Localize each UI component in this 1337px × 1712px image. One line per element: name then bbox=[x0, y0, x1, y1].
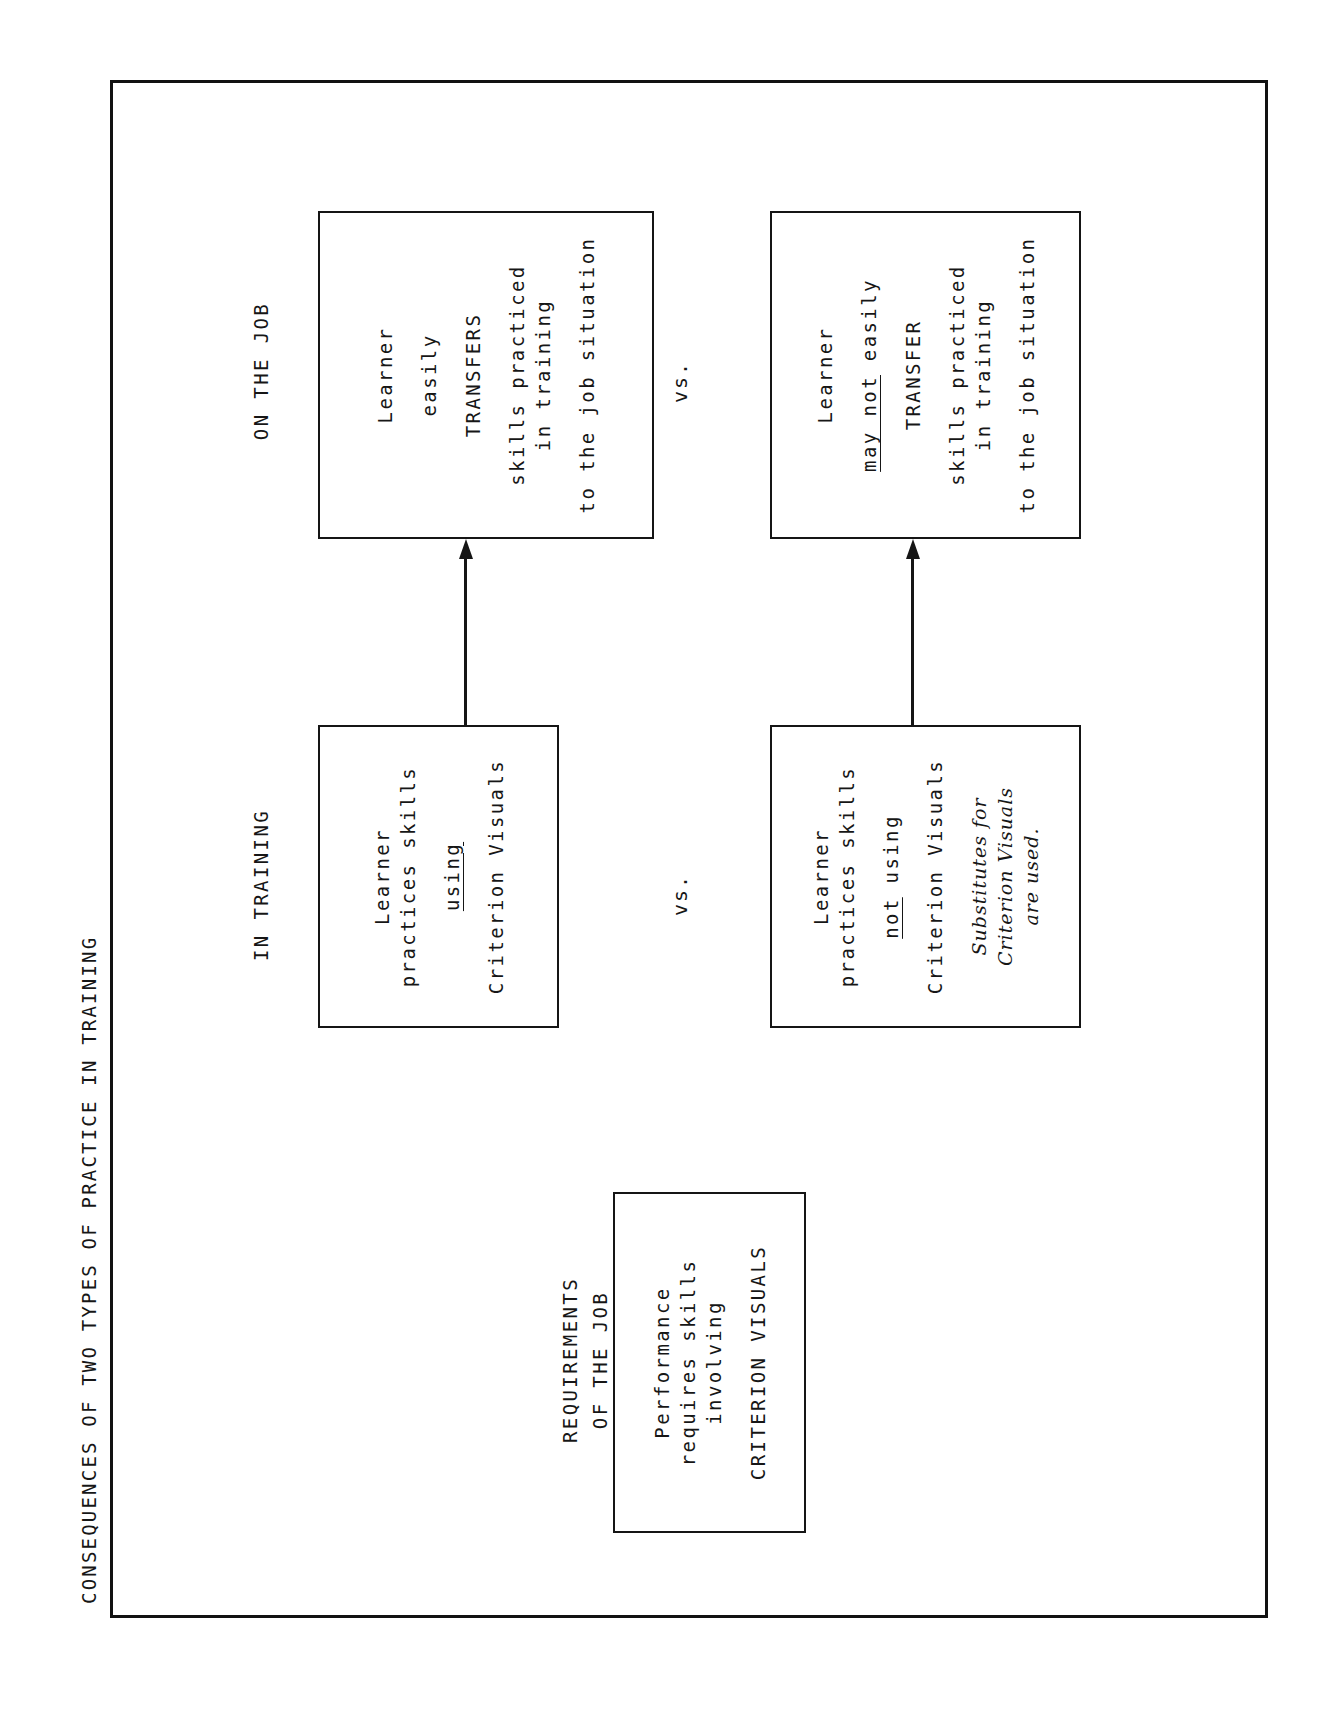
rotated-page: CONSEQUENCES OF TWO TYPES OF PRACTICE IN… bbox=[0, 0, 1337, 1712]
training-box-not-using: Learner practices skills not using Crite… bbox=[770, 725, 1081, 1028]
job-box-transfers: Learner easily TRANSFERS skills practice… bbox=[318, 211, 654, 539]
requirements-heading-line-1: REQUIREMENTS bbox=[555, 1277, 585, 1443]
may-not-emphasis: may not bbox=[858, 375, 880, 472]
training-not-using-line-1: Learner bbox=[808, 828, 834, 925]
requirements-box: Performance requires skills involving CR… bbox=[613, 1192, 806, 1533]
vs-job: vs. bbox=[668, 361, 692, 403]
job-box-may-not-transfer: Learner may not easily TRANSFER skills p… bbox=[770, 211, 1081, 539]
job-may-not-line-6: to the job situation bbox=[1014, 237, 1040, 514]
job-transfers-line-4: skills practiced bbox=[504, 264, 530, 485]
requirements-heading-line-2: OF THE JOB bbox=[585, 1277, 615, 1443]
requirements-heading: REQUIREMENTS OF THE JOB bbox=[555, 1277, 615, 1443]
training-using-line-1: Learner bbox=[369, 828, 395, 925]
requirements-line-3: involving bbox=[701, 1300, 727, 1425]
job-transfers-line-1: Learner bbox=[372, 327, 398, 424]
training-not-emphasis: not bbox=[880, 897, 902, 939]
arrow-1-shaft bbox=[464, 559, 467, 725]
job-transfers-line-5: in training bbox=[530, 299, 556, 451]
job-transfers-line-3: TRANSFERS bbox=[460, 313, 486, 438]
page-title: CONSEQUENCES OF TWO TYPES OF PRACTICE IN… bbox=[78, 936, 100, 1604]
training-not-using-word: using bbox=[880, 814, 902, 897]
job-transfers-line-6: to the job situation bbox=[574, 237, 600, 514]
job-transfers-line-2: easily bbox=[416, 333, 442, 416]
substitutes-note-line-1: Substitutes for bbox=[966, 798, 992, 956]
vs-training: vs. bbox=[668, 874, 692, 916]
easily-word: easily bbox=[858, 278, 880, 375]
arrow-2-head-icon bbox=[906, 539, 920, 559]
substitutes-note-line-2: Criterion Visuals bbox=[992, 787, 1018, 966]
training-not-using-line-2: practices skills bbox=[834, 766, 860, 987]
job-may-not-line-3: TRANSFER bbox=[900, 320, 926, 431]
requirements-line-1: Performance bbox=[649, 1286, 675, 1438]
training-using-emphasis: using bbox=[439, 842, 465, 911]
arrow-2-shaft bbox=[911, 559, 914, 725]
training-not-using-line-3: not using bbox=[878, 814, 904, 939]
on-the-job-heading: ON THE JOB bbox=[246, 302, 276, 440]
arrow-1-head-icon bbox=[459, 539, 473, 559]
requirements-line-2: requires skills bbox=[675, 1259, 701, 1467]
job-may-not-line-1: Learner bbox=[812, 327, 838, 424]
job-may-not-line-5: in training bbox=[970, 299, 996, 451]
training-not-using-line-4: Criterion Visuals bbox=[922, 759, 948, 994]
job-may-not-line-2: may not easily bbox=[856, 278, 882, 472]
job-may-not-line-4: skills practiced bbox=[944, 264, 970, 485]
training-box-using: Learner practices skills using Criterion… bbox=[318, 725, 559, 1028]
training-using-line-2: practices skills bbox=[395, 766, 421, 987]
substitutes-note-line-3: are used. bbox=[1018, 827, 1044, 925]
in-training-heading: IN TRAINING bbox=[246, 809, 276, 961]
training-using-line-4: Criterion Visuals bbox=[483, 759, 509, 994]
requirements-line-4: CRITERION VISUALS bbox=[745, 1245, 771, 1480]
